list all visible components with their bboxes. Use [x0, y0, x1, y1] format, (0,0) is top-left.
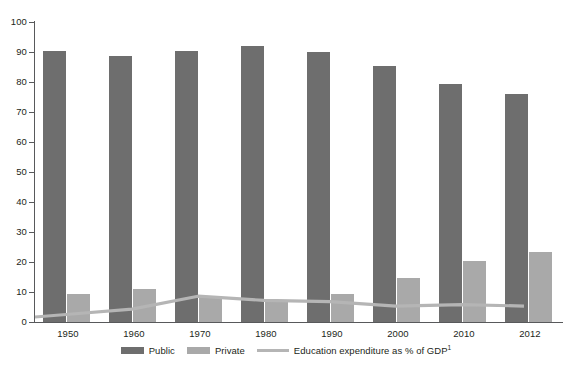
- y-axis-tick-label: 30: [1, 227, 27, 237]
- bar-private-2000: [397, 278, 420, 322]
- bar-public-2000: [373, 66, 396, 323]
- x-axis-line: [34, 322, 563, 323]
- bar-private-1950: [67, 294, 90, 323]
- bar-private-1960: [133, 289, 156, 322]
- y-axis-tick-label: 70: [1, 107, 27, 117]
- legend-label: Public: [149, 345, 175, 356]
- y-axis-tick-label: 40: [1, 197, 27, 207]
- legend-label: Private: [215, 345, 245, 356]
- bar-private-1970: [199, 296, 222, 322]
- bar-public-1990: [307, 52, 330, 322]
- bar-public-2010: [439, 84, 462, 323]
- bar-public-2012: [505, 94, 528, 322]
- bar-public-1980: [241, 46, 264, 322]
- x-axis-tick-label: 2010: [431, 328, 497, 339]
- y-axis-tick-label: 90: [1, 47, 27, 57]
- y-axis-tick-label: 20: [1, 257, 27, 267]
- legend-swatch-private-icon: [187, 347, 210, 354]
- legend-item-public[interactable]: Public: [121, 345, 175, 356]
- y-axis-tick-label: 50: [1, 167, 27, 177]
- legend-swatch-public-icon: [121, 347, 144, 354]
- bar-private-1980: [265, 300, 288, 323]
- legend-label: Education expenditure as % of GDP1: [294, 345, 451, 356]
- bar-private-2010: [463, 261, 486, 322]
- chart-container: 0102030405060708090100 19501960197019801…: [0, 0, 572, 370]
- x-axis-tick-label: 1980: [233, 328, 299, 339]
- bar-private-1990: [331, 294, 354, 322]
- x-axis-tick-label: 1970: [167, 328, 233, 339]
- legend-line-marker-icon: [257, 349, 289, 352]
- bar-public-1960: [109, 56, 132, 322]
- y-axis-tick-label: 0: [1, 317, 27, 327]
- legend-item-private[interactable]: Private: [187, 345, 245, 356]
- x-axis-tick-label: 1960: [101, 328, 167, 339]
- chart-legend: PublicPrivateEducation expenditure as % …: [0, 345, 572, 356]
- x-axis-tick-label: 2012: [497, 328, 563, 339]
- x-axis-tick-label: 2000: [365, 328, 431, 339]
- bar-public-1970: [175, 51, 198, 323]
- plot-area: [35, 22, 563, 322]
- legend-footnote-marker: 1: [448, 344, 452, 351]
- y-axis-tick-label: 60: [1, 137, 27, 147]
- legend-item-education[interactable]: Education expenditure as % of GDP1: [257, 345, 451, 356]
- x-axis-tick-label: 1950: [35, 328, 101, 339]
- x-axis-tick-label: 1990: [299, 328, 365, 339]
- y-axis-tick-label: 100: [1, 17, 27, 27]
- y-axis-tick-label: 10: [1, 287, 27, 297]
- y-axis-tick-label: 80: [1, 77, 27, 87]
- bar-public-1950: [43, 51, 66, 322]
- bar-private-2012: [529, 252, 552, 322]
